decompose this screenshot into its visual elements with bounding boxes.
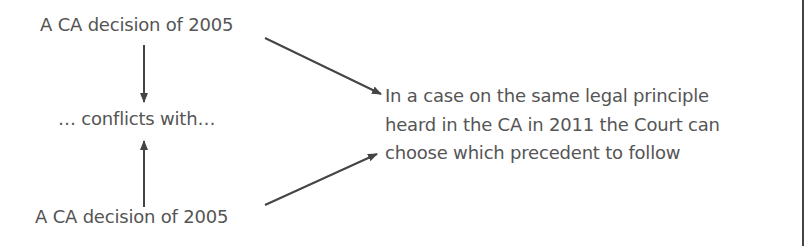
node-top-ca-decision: A CA decision of 2005 — [40, 16, 233, 34]
result-line-3: choose which precedent to follow — [385, 139, 745, 168]
node-result: In a case on the same legal principle he… — [385, 82, 745, 168]
result-line-1: In a case on the same legal principle — [385, 82, 745, 111]
right-border-divider — [802, 0, 804, 246]
node-bottom-ca-decision: A CA decision of 2005 — [35, 208, 228, 226]
result-line-2: heard in the CA in 2011 the Court can — [385, 111, 745, 140]
arrow-bottom-to-result — [265, 154, 377, 205]
node-conflicts-with: … conflicts with… — [58, 110, 215, 128]
arrow-top-to-result — [265, 38, 381, 94]
